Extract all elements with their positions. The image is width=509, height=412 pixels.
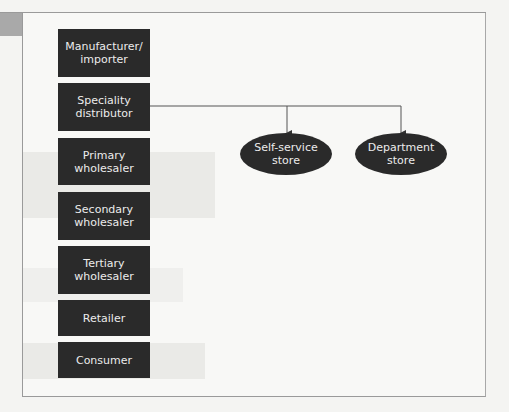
node-primary-wholesaler: Primary wholesaler bbox=[58, 138, 150, 185]
node-consumer: Consumer bbox=[58, 342, 150, 378]
node-manufacturer-importer: Manufacturer/ importer bbox=[58, 29, 150, 77]
node-self-service-store: Self-service store bbox=[240, 133, 332, 175]
node-secondary-wholesaler: Secondary wholesaler bbox=[58, 192, 150, 240]
node-retailer: Retailer bbox=[58, 300, 150, 336]
node-department-store: Department store bbox=[355, 133, 447, 175]
node-speciality-distributor: Speciality distributor bbox=[58, 83, 150, 131]
node-tertiary-wholesaler: Tertiary wholesaler bbox=[58, 246, 150, 294]
